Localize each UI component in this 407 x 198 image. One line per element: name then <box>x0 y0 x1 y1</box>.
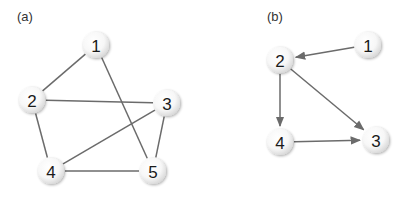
edge-a-3-4 <box>63 110 155 164</box>
node-b-1: 1 <box>355 32 381 58</box>
node-label: 4 <box>275 134 284 153</box>
edge-a-1-5 <box>102 58 147 158</box>
node-b-2: 2 <box>267 47 293 73</box>
node-label: 3 <box>371 132 380 151</box>
node-label: 1 <box>363 37 372 56</box>
node-label: 1 <box>91 37 100 56</box>
edge-a-2-3 <box>46 100 153 102</box>
node-label: 2 <box>27 92 36 111</box>
edge-a-1-2 <box>43 54 86 91</box>
arrow-edge-b-4-3 <box>294 140 360 141</box>
node-a-1: 1 <box>83 32 109 58</box>
panel-label-a: (a) <box>17 9 33 24</box>
arrow-edge-b-2-3 <box>291 69 364 130</box>
panel-label-b: (b) <box>267 9 283 24</box>
edge-a-2-4 <box>36 114 48 158</box>
node-b-3: 3 <box>363 127 389 153</box>
node-b-4: 4 <box>267 129 293 155</box>
graph-diagram: 123451234 (a)(b) <box>0 0 407 198</box>
node-a-2: 2 <box>19 87 45 113</box>
edge-a-3-5 <box>156 117 164 158</box>
node-label: 3 <box>162 95 171 114</box>
node-label: 2 <box>275 52 284 71</box>
node-a-3: 3 <box>154 90 180 116</box>
arrow-edge-b-1-2 <box>296 47 354 57</box>
node-label: 5 <box>148 163 157 182</box>
node-label: 4 <box>46 163 55 182</box>
node-a-5: 5 <box>140 158 166 184</box>
nodes-layer: 123451234 <box>19 32 389 184</box>
node-a-4: 4 <box>38 158 64 184</box>
panel-labels-layer: (a)(b) <box>17 9 283 24</box>
edges-layer <box>36 47 364 171</box>
